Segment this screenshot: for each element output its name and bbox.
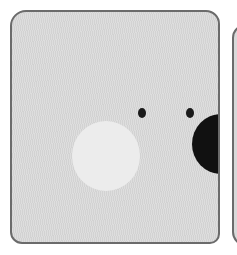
cheek-circle (72, 121, 140, 191)
right-eye (186, 108, 194, 118)
adjacent-panel-edge (232, 24, 237, 246)
illustration-panel (10, 10, 220, 244)
nose (192, 114, 220, 174)
left-eye (138, 108, 146, 118)
